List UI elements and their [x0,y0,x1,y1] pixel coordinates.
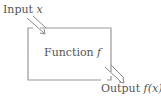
function-label: Function f [44,47,101,58]
function-variable: f [97,46,101,59]
output-variable: f(x) [144,82,161,95]
function-box-corner-br [107,76,111,80]
input-variable: x [36,3,42,16]
input-label-text: Input [3,3,36,16]
output-label: Output f(x) [101,83,161,94]
function-diagram: Input x Function f Output f(x) [0,0,161,99]
input-label: Input x [3,4,43,15]
function-label-text: Function [44,46,97,59]
function-box-corner-tl [28,28,33,32]
input-arrow [27,16,46,34]
output-label-text: Output [101,82,144,95]
